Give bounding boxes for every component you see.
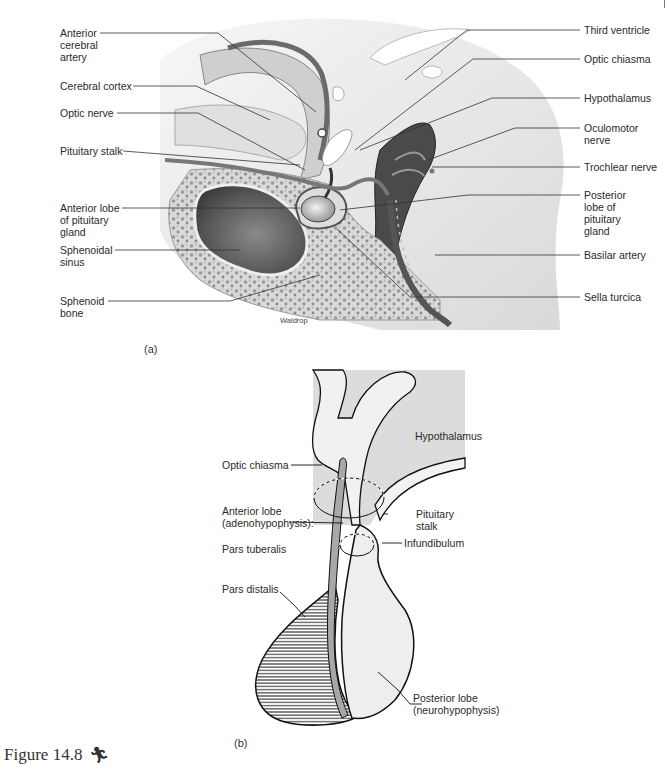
label-line: Anterior lobe (222, 505, 314, 517)
label-b-pars-tuberalis: Pars tuberalis (222, 543, 286, 555)
label-line: Pituitary (416, 508, 454, 520)
label-b-pituitary-stalk: Pituitary stalk (416, 508, 454, 532)
posterior-lobe (342, 525, 414, 718)
label-line: Posterior lobe (413, 692, 499, 704)
caption-text: Figure 14.8 (4, 745, 82, 764)
label-b-posterior-lobe: Posterior lobe (neurohypophysis) (413, 692, 499, 716)
label-b-hypothalamus: Hypothalamus (415, 430, 482, 442)
label-line: stalk (416, 520, 454, 532)
label-b-infundibulum: Infundibulum (404, 537, 464, 549)
label-b-optic-chiasma: Optic chiasma (222, 459, 289, 471)
running-figure-icon: 🏃︎ (89, 746, 109, 763)
panel-b-illustration (0, 0, 669, 774)
label-line: (neurohypophysis) (413, 704, 499, 716)
figure-caption: Figure 14.8 🏃︎ (4, 745, 109, 765)
label-b-pars-distalis: Pars distalis (222, 583, 279, 595)
label-line: (adenohypophysis): (222, 517, 314, 529)
panel-b-tag: (b) (234, 737, 247, 749)
label-b-anterior-lobe: Anterior lobe (adenohypophysis): (222, 505, 314, 529)
